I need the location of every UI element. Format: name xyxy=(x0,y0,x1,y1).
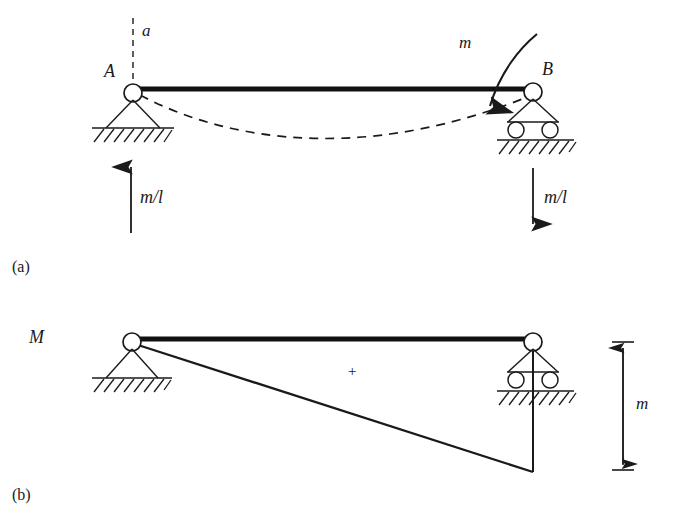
roller-right-b2 xyxy=(542,372,558,388)
support-leg-left-b xyxy=(508,99,533,122)
roller-support-b-panel xyxy=(497,333,576,405)
support-leg-left xyxy=(106,100,133,128)
moment-diagonal xyxy=(138,345,533,472)
support-leg-right-b xyxy=(533,99,558,122)
panel-a-group xyxy=(92,18,576,233)
dimension-label-m: m xyxy=(636,395,648,412)
support-leg-left-a2 xyxy=(106,349,132,378)
pin-support-b-panel xyxy=(92,333,172,392)
reaction-label-right: m/l xyxy=(544,188,567,206)
roller-support-b xyxy=(497,83,576,154)
dimension-m xyxy=(612,342,634,470)
hinge-node-a xyxy=(124,84,142,102)
deflection-curve xyxy=(140,95,530,139)
support-leg-left-b2 xyxy=(508,349,533,372)
figure-root: a A B m m/l m/l (a) M + m (b) xyxy=(0,0,686,520)
hinge-node-b xyxy=(524,83,542,101)
applied-moment-label: m xyxy=(459,34,471,51)
support-leg-right xyxy=(133,100,160,128)
moment-sign-label: + xyxy=(348,364,356,379)
roller-left-b xyxy=(508,122,524,138)
ground-hatching-a xyxy=(94,129,172,142)
node-label-a: A xyxy=(104,62,115,80)
hinge-node-a2 xyxy=(123,333,141,351)
ground-hatching-b2 xyxy=(499,392,576,405)
moment-axis-label: M xyxy=(29,328,44,346)
support-leg-right-a2 xyxy=(132,349,158,378)
ground-hatching-b xyxy=(499,141,576,154)
panel-b-group xyxy=(92,333,634,472)
support-leg-right-b2 xyxy=(533,349,558,372)
ground-hatching-a2 xyxy=(94,379,171,392)
panel-label-b: (b) xyxy=(12,487,31,503)
section-marker-label: a xyxy=(142,22,151,39)
hinge-node-b2 xyxy=(524,333,542,351)
pin-support-a xyxy=(92,84,174,142)
node-label-b: B xyxy=(542,60,553,78)
reaction-label-left: m/l xyxy=(140,188,163,206)
panel-label-a: (a) xyxy=(12,259,30,275)
roller-left-b2 xyxy=(508,372,524,388)
beam-diagram-svg xyxy=(0,0,686,520)
roller-right-b xyxy=(542,122,558,138)
